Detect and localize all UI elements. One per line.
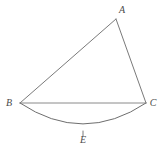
figure-canvas: A B C E <box>0 0 166 155</box>
label-c: C <box>150 97 157 108</box>
label-a: A <box>118 4 126 15</box>
label-e: E <box>79 134 86 145</box>
label-b: B <box>6 97 12 108</box>
arc-bec <box>20 103 146 124</box>
segment-ac <box>116 19 146 103</box>
segment-ab <box>20 19 116 103</box>
geometry-figure: A B C E <box>0 0 166 155</box>
